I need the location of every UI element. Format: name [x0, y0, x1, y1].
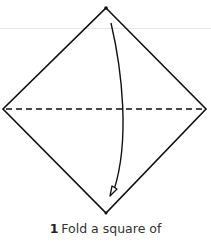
bottom-corner-dot [105, 212, 108, 215]
paper-square [3, 8, 206, 213]
step-caption: 1Fold a square of [0, 221, 211, 236]
step-text: Fold a square of [61, 221, 161, 236]
fold-diagram [0, 0, 211, 242]
top-corner-dot [104, 6, 108, 10]
step-number: 1 [50, 221, 59, 236]
